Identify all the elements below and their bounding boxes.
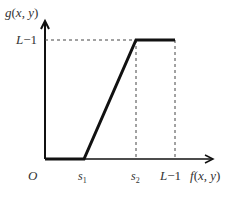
x-tick-s1: s1 — [78, 169, 87, 185]
x-tick-L-1: L−1 — [159, 168, 181, 183]
origin-label: O — [28, 168, 38, 183]
transform-diagram: g(x, y) L−1 O s1 s2 L−1 f(x, y) — [0, 0, 231, 200]
x-tick-s2: s2 — [131, 169, 140, 185]
x-axis-label: f(x, y) — [190, 168, 220, 183]
transfer-function-curve — [45, 40, 175, 159]
y-axis-label: g(x, y) — [5, 5, 38, 20]
y-tick-label: L−1 — [15, 32, 37, 47]
